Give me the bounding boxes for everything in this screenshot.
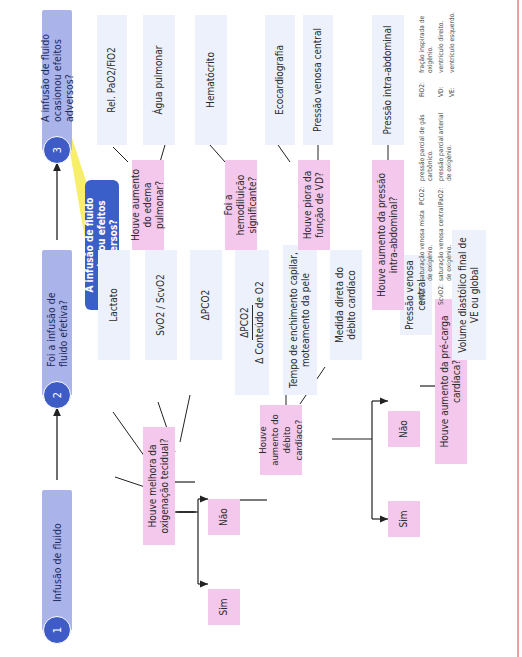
question-cardiac-output: Houve aumento do débito cardíaco? [260, 405, 302, 475]
step-2-number: 2 [51, 392, 64, 398]
legend-item: VE:ventrículo esquerdo. [448, 7, 456, 97]
step-2-header: Foi a infusão de fluido efetiva? [42, 250, 72, 395]
legend-abbr: VE: [448, 73, 456, 97]
marker-lung-water: Água pulmonar [143, 15, 175, 145]
step-2-number-badge: 2 [43, 381, 71, 409]
legend-abbr: ScvO2: [437, 281, 453, 305]
question-pulmonary-edema: Houve aumento do edema pulmonar? [132, 160, 164, 250]
legend-abbr: VD: [437, 73, 445, 97]
step-3-number: 3 [51, 147, 64, 153]
question-intra-abdominal: Houve aumento da pressão intra-abdominal… [372, 160, 404, 310]
cardiac-output-no: Não [388, 411, 420, 447]
legend-col-1: SvO2:saturação venosa mista de oxigênio.… [418, 205, 456, 305]
question-hemodilution: Foi a hemodiluição significante? [225, 160, 257, 250]
legend-item: VD:ventrículo direito. [437, 7, 445, 97]
flowchart-stage: Infusão de fluido 1 Foi a infusão de flu… [0, 0, 522, 657]
marker-cvp-adverse: Pressão venosa central [303, 15, 333, 145]
question-rv-function: Houve piora da função de VD? [298, 160, 330, 250]
marker-direct-co: Medida direta do débito cardíaco [330, 250, 362, 360]
step-3-number-badge: 3 [43, 136, 71, 164]
legend-item: SvO2:saturação venosa mista de oxigênio. [418, 205, 434, 305]
step-3-title: A infusão de fluido ocasionou efeitos ad… [39, 17, 75, 122]
step-1-number: 1 [51, 627, 64, 633]
marker-echocardiography: Ecocardiografia [265, 15, 295, 145]
legend-col-3: FiO2:fração inspirada de oxigênio. VD:ve… [418, 7, 459, 97]
legend-abbr: SvO2: [418, 281, 434, 305]
legend-item: PCO2:pressão parcial de gás carbônico. [418, 105, 434, 205]
ratio-denominator: Δ Conteúdo de O2 [253, 281, 266, 363]
marker-hematocrit: Hematócrito [195, 15, 227, 145]
marker-pco2-ratio: ΔPCO2 Δ Conteúdo de O2 [235, 250, 269, 395]
ratio-fraction: ΔPCO2 Δ Conteúdo de O2 [239, 281, 266, 363]
legend-text: saturação venosa central de oxigênio. [437, 205, 453, 281]
cardiac-output-yes: Sim [388, 501, 420, 537]
step-1-number-badge: 1 [43, 616, 71, 644]
marker-end-diastolic-volume: Volume diastólico final de VE ou global [452, 230, 486, 360]
oxygenation-no: Não [208, 499, 240, 535]
marker-capillary-refill: Tempo de enchimento capilar, moteamento … [283, 245, 317, 395]
legend-item: FiO2:fração inspirada de oxigênio. [418, 7, 434, 97]
oxygenation-yes: Sim [208, 589, 240, 625]
legend-text: saturação venosa mista de oxigênio. [418, 205, 434, 281]
marker-delta-pco2: ΔPCO2 [190, 250, 222, 360]
marker-iap: Pressão intra-abdominal [372, 15, 404, 145]
legend-text: ventrículo esquerdo. [448, 12, 456, 73]
question-oxygenation: Houve melhora da oxigenação tecidual? [143, 427, 175, 545]
ratio-numerator: ΔPCO2 [239, 305, 253, 340]
legend-text: pressão parcial de gás carbônico. [418, 105, 434, 181]
marker-pao2-fio2: Rel. PaO2/FiO2 [97, 15, 127, 145]
legend-abbr: PaO2: [437, 181, 453, 205]
step-1-header: Infusão de fluido [42, 490, 72, 630]
legend-col-2: PCO2:pressão parcial de gás carbônico. P… [418, 105, 456, 205]
legend-abbr: FiO2: [418, 73, 434, 97]
legend-item: ScvO2:saturação venosa central de oxigên… [437, 205, 453, 305]
page-edge-rule [517, 0, 519, 657]
step-1-title: Infusão de fluido [51, 523, 63, 602]
marker-svo2-scvo2: SvO2 / ScvO2 [145, 250, 177, 360]
marker-lactato: Lactato [98, 250, 130, 360]
step-3-header: A infusão de fluido ocasionou efeitos ad… [42, 10, 72, 150]
legend-abbr: PCO2: [418, 181, 434, 205]
legend-text: fração inspirada de oxigênio. [418, 7, 434, 73]
legend-item: PaO2:pressão parcial arterial de oxigêni… [437, 105, 453, 205]
legend-text: ventrículo direito. [437, 21, 445, 73]
step-2-title: Foi a infusão de fluido efetiva? [45, 277, 69, 367]
legend-text: pressão parcial arterial de oxigênio. [437, 105, 453, 181]
